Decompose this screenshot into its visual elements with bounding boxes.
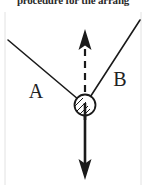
vector-b-label: B xyxy=(113,68,126,90)
vector-a-label: A xyxy=(29,80,44,102)
figure-root: procedure for the arrang xyxy=(0,0,146,185)
force-diagram: A B xyxy=(0,0,146,185)
vector-a-line xyxy=(8,40,85,105)
vector-b-line xyxy=(85,20,140,105)
up-vector-arrowhead xyxy=(79,29,92,50)
